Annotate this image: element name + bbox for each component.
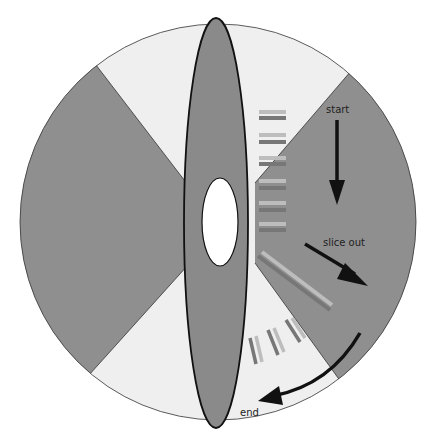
- center-hole: [202, 178, 238, 266]
- diagram-canvas: start slice out end: [0, 0, 433, 444]
- label-start: start: [326, 104, 349, 115]
- label-end: end: [240, 407, 259, 418]
- label-slice-out: slice out: [323, 237, 365, 248]
